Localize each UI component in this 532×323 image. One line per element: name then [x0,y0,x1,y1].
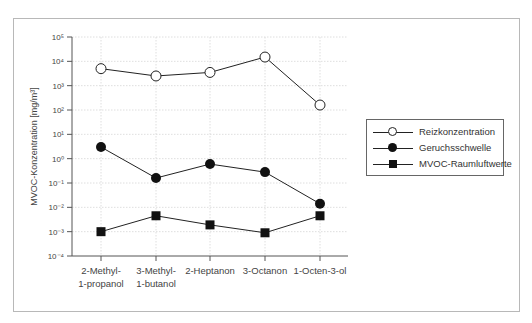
y-tick-label: 10⁵ [52,33,64,42]
series-line [101,57,320,105]
series-line [101,147,320,204]
x-category-label: 3-Octanon [243,265,287,276]
x-category-label: 3-Methyl- [136,265,176,276]
data-point-square [97,227,106,236]
data-point-filled-circle [205,159,215,169]
x-category-label: 2-Methyl- [81,265,121,276]
legend-item-geruchsschwelle: Geruchsschwelle [367,141,503,155]
data-point-filled-circle [96,142,106,152]
legend-item-mvoc-raumluftwerte: MVOC-Raumluftwerte [367,157,503,171]
legend-label: Reizkonzentration [419,125,495,139]
data-point-square [206,220,215,229]
y-tick-label: 10¹ [52,130,64,139]
y-axis-title: MVOC-Konzentration [mg/m³] [29,87,39,206]
chart-legend: Reizkonzentration Geruchsschwelle MVOC-R… [366,119,504,176]
x-category-label: 1-propanol [78,278,123,289]
data-point-filled-circle [315,199,325,209]
x-category-label: 1-Octen-3-ol [294,265,347,276]
open-circle-marker-icon [388,127,397,136]
legend-label: MVOC-Raumluftwerte [419,157,512,171]
y-tick-label: 10⁻⁴ [48,252,65,261]
x-category-label: 2-Heptanon [185,265,235,276]
y-tick-label: 10² [52,106,64,115]
filled-circle-marker-icon [388,143,397,152]
data-point-square [316,211,325,220]
data-point-square [261,228,270,237]
filled-square-marker-icon [389,160,397,168]
y-tick-label: 10⁻³ [48,228,64,237]
data-point-filled-circle [260,167,270,177]
data-point-open-circle [205,67,215,77]
data-point-open-circle [151,71,161,81]
data-point-open-circle [315,100,325,110]
data-point-square [152,211,161,220]
y-tick-label: 10⁰ [52,155,64,164]
y-tick-label: 10⁻² [48,203,64,212]
y-tick-label: 10⁻¹ [48,179,64,188]
legend-item-reizkonzentration: Reizkonzentration [367,125,503,139]
y-tick-label: 10⁴ [52,57,65,66]
legend-label: Geruchsschwelle [419,141,491,155]
x-category-label: 1-butanol [136,278,176,289]
data-point-open-circle [96,64,106,74]
y-tick-label: 10³ [52,82,64,91]
data-point-open-circle [260,52,270,62]
data-point-filled-circle [151,173,161,183]
